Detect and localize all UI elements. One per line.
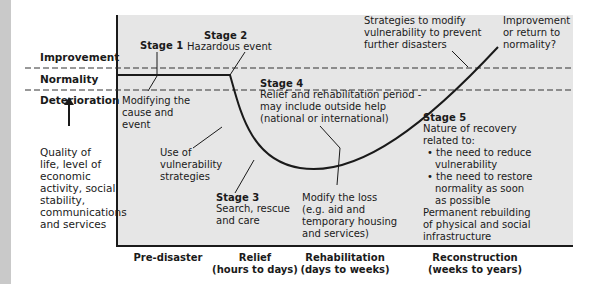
y-axis-indicator-label: Quality of life, level of economic activ… xyxy=(40,146,127,230)
stage2-leader xyxy=(230,52,245,75)
stage5-bullet-1: • the need to reduce xyxy=(423,147,532,159)
stage3-text: Search, rescue and care xyxy=(216,203,290,227)
outcome-annotation: Improvement or return to normality? xyxy=(503,15,570,51)
band-label-deterioration: Deterioration xyxy=(40,94,120,106)
strategies-annotation: Strategies to modify vulnerability to pr… xyxy=(364,15,481,51)
stage4-leader xyxy=(320,126,340,148)
vulnerability-leader xyxy=(193,127,222,148)
band-label-normality: Normality xyxy=(40,73,98,85)
vulnerability-annotation: Use of vulnerability strategies xyxy=(160,147,222,183)
stage1-text: Modifying the cause and event xyxy=(122,95,190,131)
stage5-text: Nature of recovery related to: • the nee… xyxy=(423,123,532,243)
phase-label-reconstruction: Reconstruction (weeks to years) xyxy=(425,252,525,276)
modify-cause-leader xyxy=(148,76,157,91)
phase-label-relief: Relief (hours to days) xyxy=(210,252,300,276)
arrow-up-icon xyxy=(68,104,70,126)
stage1-title: Stage 1 xyxy=(140,40,183,52)
strategies-leader xyxy=(452,51,468,67)
modify-loss-annotation: Modify the loss (e.g. aid and temporary … xyxy=(302,192,397,240)
stage4-text: Relief and rehabilitation period - may i… xyxy=(260,89,421,125)
phase-label-pre-disaster: Pre-disaster xyxy=(128,252,208,264)
stage2-text: Hazardous event xyxy=(187,41,272,53)
stage3-leader xyxy=(235,160,254,193)
phase-label-rehabilitation: Rehabilitation (days to weeks) xyxy=(300,252,390,276)
band-label-improvement: Improvement xyxy=(40,51,119,63)
stage5-bullet-2: • the need to restore xyxy=(423,171,532,183)
